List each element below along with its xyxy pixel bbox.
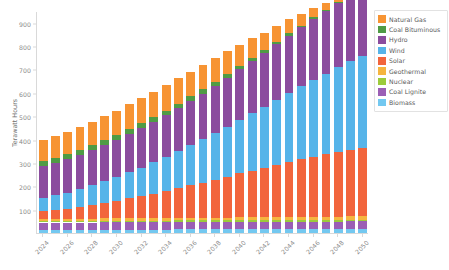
bar-segment-biomass[interactable] xyxy=(149,230,158,234)
bar-segment-nuclear[interactable] xyxy=(322,220,331,222)
bar-segment-solar[interactable] xyxy=(51,210,60,219)
bar-segment-biomass[interactable] xyxy=(211,229,220,233)
bar-segment-biomass[interactable] xyxy=(272,229,281,233)
bar-segment-hydro[interactable] xyxy=(235,69,244,119)
bar-segment-coal-bituminous[interactable] xyxy=(309,17,318,18)
bar-segment-coal-lignite[interactable] xyxy=(162,222,171,229)
bar-2024[interactable] xyxy=(39,140,48,233)
bar-segment-coal-lignite[interactable] xyxy=(88,223,97,230)
bar-segment-wind[interactable] xyxy=(285,93,294,162)
bar-segment-hydro[interactable] xyxy=(223,78,232,127)
bar-2027[interactable] xyxy=(76,127,85,233)
bar-segment-natural-gas[interactable] xyxy=(211,58,220,81)
bar-segment-coal-lignite[interactable] xyxy=(137,222,146,229)
bar-segment-solar[interactable] xyxy=(137,196,146,218)
bar-segment-natural-gas[interactable] xyxy=(137,98,146,123)
bar-segment-hydro[interactable] xyxy=(125,134,134,172)
bar-segment-nuclear[interactable] xyxy=(63,221,72,223)
bar-segment-nuclear[interactable] xyxy=(248,220,257,222)
bar-segment-solar[interactable] xyxy=(162,191,171,218)
bar-segment-coal-bituminous[interactable] xyxy=(162,111,171,116)
bar-segment-nuclear[interactable] xyxy=(272,220,281,222)
bar-segment-nuclear[interactable] xyxy=(334,220,343,222)
bar-segment-geothermal[interactable] xyxy=(199,218,208,221)
bar-2047[interactable] xyxy=(322,3,331,233)
bar-segment-coal-bituminous[interactable] xyxy=(174,104,183,109)
bar-segment-solar[interactable] xyxy=(260,168,269,218)
bar-segment-natural-gas[interactable] xyxy=(51,136,60,158)
bar-segment-solar[interactable] xyxy=(88,205,97,219)
bar-segment-solar[interactable] xyxy=(199,183,208,218)
bar-segment-coal-bituminous[interactable] xyxy=(125,129,134,134)
bar-segment-hydro[interactable] xyxy=(174,108,183,151)
legend-item-coal-lignite[interactable]: Coal Lignite xyxy=(378,87,444,97)
bar-segment-hydro[interactable] xyxy=(272,44,281,100)
bar-segment-geothermal[interactable] xyxy=(76,219,85,221)
bar-segment-coal-bituminous[interactable] xyxy=(235,66,244,70)
bar-segment-biomass[interactable] xyxy=(358,229,367,233)
bar-segment-solar[interactable] xyxy=(63,209,72,219)
bar-segment-coal-lignite[interactable] xyxy=(125,222,134,229)
bar-segment-geothermal[interactable] xyxy=(137,218,146,220)
bar-segment-natural-gas[interactable] xyxy=(76,127,85,150)
bar-segment-natural-gas[interactable] xyxy=(285,19,294,33)
bar-segment-coal-lignite[interactable] xyxy=(223,222,232,229)
bar-segment-coal-bituminous[interactable] xyxy=(297,26,306,28)
bar-segment-hydro[interactable] xyxy=(51,163,60,195)
bar-segment-wind[interactable] xyxy=(248,113,257,170)
bar-segment-geothermal[interactable] xyxy=(112,218,121,220)
bar-segment-coal-lignite[interactable] xyxy=(186,222,195,229)
bar-segment-natural-gas[interactable] xyxy=(186,72,195,97)
bar-segment-coal-bituminous[interactable] xyxy=(112,135,121,140)
bar-segment-nuclear[interactable] xyxy=(199,220,208,222)
bar-segment-geothermal[interactable] xyxy=(88,219,97,221)
bar-segment-coal-lignite[interactable] xyxy=(235,222,244,229)
bar-segment-coal-bituminous[interactable] xyxy=(149,117,158,122)
bar-segment-coal-lignite[interactable] xyxy=(248,222,257,229)
bar-segment-wind[interactable] xyxy=(39,198,48,212)
bar-segment-geothermal[interactable] xyxy=(174,218,183,221)
bar-segment-solar[interactable] xyxy=(76,207,85,219)
bar-segment-natural-gas[interactable] xyxy=(125,104,134,129)
bar-2046[interactable] xyxy=(309,8,318,233)
bar-segment-hydro[interactable] xyxy=(149,122,158,162)
bar-segment-wind[interactable] xyxy=(88,185,97,205)
bar-segment-wind[interactable] xyxy=(162,157,171,191)
bar-segment-wind[interactable] xyxy=(149,162,158,193)
bar-segment-coal-lignite[interactable] xyxy=(211,222,220,229)
bar-segment-coal-lignite[interactable] xyxy=(358,221,367,228)
bar-segment-coal-bituminous[interactable] xyxy=(199,89,208,93)
bar-segment-solar[interactable] xyxy=(285,162,294,217)
bar-segment-geothermal[interactable] xyxy=(235,217,244,220)
bar-segment-coal-bituminous[interactable] xyxy=(272,42,281,44)
bar-segment-coal-lignite[interactable] xyxy=(76,223,85,230)
bar-segment-coal-bituminous[interactable] xyxy=(51,158,60,163)
bar-segment-coal-lignite[interactable] xyxy=(297,222,306,229)
bar-segment-biomass[interactable] xyxy=(39,230,48,233)
bar-segment-wind[interactable] xyxy=(100,181,109,202)
bar-segment-biomass[interactable] xyxy=(112,230,121,234)
bar-segment-coal-bituminous[interactable] xyxy=(100,140,109,145)
legend-item-nuclear[interactable]: Nuclear xyxy=(378,76,444,86)
bar-segment-coal-bituminous[interactable] xyxy=(285,33,294,35)
bar-segment-coal-lignite[interactable] xyxy=(260,222,269,229)
bar-segment-biomass[interactable] xyxy=(137,230,146,234)
bar-segment-coal-lignite[interactable] xyxy=(63,223,72,230)
bar-segment-wind[interactable] xyxy=(137,168,146,197)
bar-segment-natural-gas[interactable] xyxy=(63,132,72,154)
bar-segment-coal-bituminous[interactable] xyxy=(322,10,331,11)
bar-segment-wind[interactable] xyxy=(322,74,331,155)
bar-segment-coal-lignite[interactable] xyxy=(309,222,318,229)
legend-item-geothermal[interactable]: Geothermal xyxy=(378,66,444,76)
bar-2036[interactable] xyxy=(186,72,195,233)
bar-segment-solar[interactable] xyxy=(235,173,244,217)
bar-segment-natural-gas[interactable] xyxy=(297,14,306,26)
bar-segment-biomass[interactable] xyxy=(285,229,294,233)
bar-segment-geothermal[interactable] xyxy=(39,219,48,221)
legend-item-hydro[interactable]: Hydro xyxy=(378,35,444,45)
bar-2031[interactable] xyxy=(125,104,134,233)
legend-item-wind[interactable]: Wind xyxy=(378,45,444,55)
bar-segment-geothermal[interactable] xyxy=(211,218,220,221)
bar-segment-biomass[interactable] xyxy=(125,230,134,234)
bar-segment-coal-bituminous[interactable] xyxy=(248,58,257,61)
